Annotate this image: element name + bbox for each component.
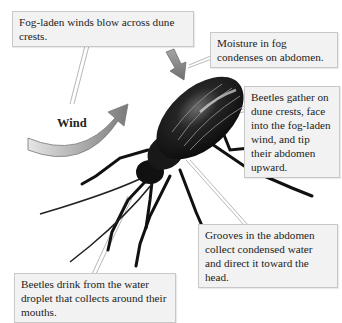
callout-moisture-text: Moisture in fog condenses on abdomen.	[217, 37, 324, 63]
callout-gather: Beetles gather on dune crests, face into…	[244, 86, 340, 178]
down-arrow-icon	[166, 49, 186, 80]
callout-grooves-text: Grooves in the abdomen collect condensed…	[205, 229, 315, 283]
wind-label: Wind	[57, 116, 87, 131]
callout-moisture: Moisture in fog condenses on abdomen.	[210, 32, 338, 68]
callout-drink: Beetles drink from the water droplet tha…	[14, 273, 176, 323]
callout-fog-winds-text: Fog-laden winds blow across dune crests.	[19, 16, 174, 42]
callout-gather-text: Beetles gather on dune crests, face into…	[251, 91, 331, 173]
callout-fog-winds: Fog-laden winds blow across dune crests.	[12, 11, 194, 47]
callout-drink-text: Beetles drink from the water droplet tha…	[21, 278, 166, 318]
callout-grooves: Grooves in the abdomen collect condensed…	[198, 224, 338, 288]
